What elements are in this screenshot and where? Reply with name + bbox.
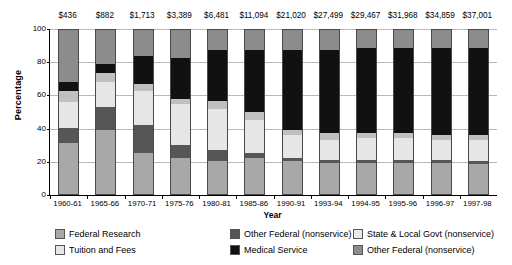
bar-segment <box>96 73 115 83</box>
bar-segment <box>357 138 376 159</box>
bar-segment <box>208 30 227 50</box>
stacked-bar-chart: Percentage $436$882$1,713$3,389$6,481$11… <box>0 0 512 265</box>
legend-swatch-icon <box>353 245 363 255</box>
bar-value-label: $27,499 <box>310 11 347 25</box>
legend-label: Medical Service <box>244 245 308 255</box>
y-axis-tick-label: 20 <box>16 158 46 166</box>
stacked-bar[interactable] <box>170 29 191 195</box>
stacked-bar[interactable] <box>393 29 414 195</box>
bar-value-labels: $436$882$1,713$3,389$6,481$11,094$21,020… <box>49 11 496 25</box>
legend-item[interactable]: Other Federal (nonservice) <box>353 242 475 257</box>
y-axis-tick-label: 100 <box>16 25 46 33</box>
bar-segment <box>394 138 413 159</box>
bar-segment <box>59 143 78 194</box>
legend-item[interactable]: State & Local Govt (nonservice) <box>353 226 494 241</box>
y-axis-tick-label: 80 <box>16 58 46 66</box>
bar-value-label: $1,713 <box>124 11 161 25</box>
bar-segment <box>394 48 413 133</box>
stacked-bar[interactable] <box>356 29 377 195</box>
bar-segment <box>59 82 78 90</box>
bar-segment <box>469 48 488 135</box>
bar-segment <box>357 163 376 194</box>
bar-segment <box>59 30 78 82</box>
bar-segment <box>320 50 339 134</box>
bar-segment <box>469 140 488 161</box>
bar-value-label: $31,968 <box>384 11 421 25</box>
bar-segment <box>245 120 264 153</box>
stacked-bar[interactable] <box>319 29 340 195</box>
bar-slot <box>274 29 311 195</box>
bar-slot <box>125 29 162 195</box>
bar-slot <box>385 29 422 195</box>
bar-slot <box>311 29 348 195</box>
bar-value-label: $29,467 <box>347 11 384 25</box>
bar-segment <box>134 30 153 56</box>
bar-segment <box>59 102 78 128</box>
stacked-bar[interactable] <box>244 29 265 195</box>
stacked-bar[interactable] <box>282 29 303 195</box>
legend-swatch-icon <box>55 229 65 239</box>
bar-segment <box>320 30 339 50</box>
bar-segment <box>394 163 413 194</box>
bar-segment <box>432 163 451 194</box>
bar-value-label: $436 <box>49 11 86 25</box>
bar-segment <box>283 161 302 194</box>
bar-segment <box>208 101 227 109</box>
legend-item[interactable]: Medical Service <box>230 242 308 257</box>
bar-slot <box>162 29 199 195</box>
stacked-bar[interactable] <box>95 29 116 195</box>
bar-segment <box>283 50 302 130</box>
bar-segment <box>134 125 153 153</box>
x-axis-title: Year <box>49 210 496 220</box>
bar-value-label: $3,389 <box>161 11 198 25</box>
bar-segment <box>432 30 451 48</box>
bar-segment <box>171 104 190 145</box>
bar-segment <box>245 112 264 120</box>
bar-value-label: $21,020 <box>273 11 310 25</box>
bar-segment <box>245 158 264 194</box>
stacked-bar[interactable] <box>58 29 79 195</box>
bar-segment <box>134 153 153 194</box>
legend-label: Other Federal (nonservice) <box>244 229 352 239</box>
legend-swatch-icon <box>230 229 240 239</box>
bar-segment <box>283 30 302 50</box>
bar-value-label: $37,001 <box>459 11 496 25</box>
chart-legend: Federal ResearchOther Federal (nonservic… <box>55 226 485 260</box>
bar-segment <box>208 161 227 194</box>
bar-slot <box>87 29 124 195</box>
bar-segment <box>469 30 488 48</box>
legend-item[interactable]: Tuition and Fees <box>55 242 136 257</box>
bar-slot <box>423 29 460 195</box>
stacked-bar[interactable] <box>133 29 154 195</box>
legend-item[interactable]: Federal Research <box>55 226 141 241</box>
bar-segment <box>283 135 302 158</box>
stacked-bar[interactable] <box>468 29 489 195</box>
bar-segment <box>208 50 227 101</box>
bar-value-label: $6,481 <box>198 11 235 25</box>
stacked-bar[interactable] <box>431 29 452 195</box>
bar-segment <box>357 30 376 48</box>
bar-segment <box>96 130 115 194</box>
y-axis-tick-label: 0 <box>16 191 46 199</box>
legend-label: Other Federal (nonservice) <box>367 245 475 255</box>
y-axis-tick-label: 40 <box>16 125 46 133</box>
bar-group <box>50 29 497 195</box>
legend-label: Federal Research <box>69 229 141 239</box>
bar-slot <box>50 29 87 195</box>
y-axis-tick-label: 60 <box>16 91 46 99</box>
legend-label: State & Local Govt (nonservice) <box>367 229 494 239</box>
bar-slot <box>199 29 236 195</box>
bar-segment <box>171 58 190 99</box>
plot-area: 020406080100 <box>49 29 497 196</box>
bar-segment <box>96 107 115 130</box>
legend-label: Tuition and Fees <box>69 245 136 255</box>
bar-segment <box>208 109 227 150</box>
bar-segment <box>59 128 78 143</box>
stacked-bar[interactable] <box>207 29 228 195</box>
bar-segment <box>432 140 451 160</box>
bar-segment <box>469 164 488 194</box>
bar-segment <box>59 91 78 102</box>
legend-item[interactable]: Other Federal (nonservice) <box>230 226 352 241</box>
bar-segment <box>320 163 339 194</box>
bar-slot <box>460 29 497 195</box>
